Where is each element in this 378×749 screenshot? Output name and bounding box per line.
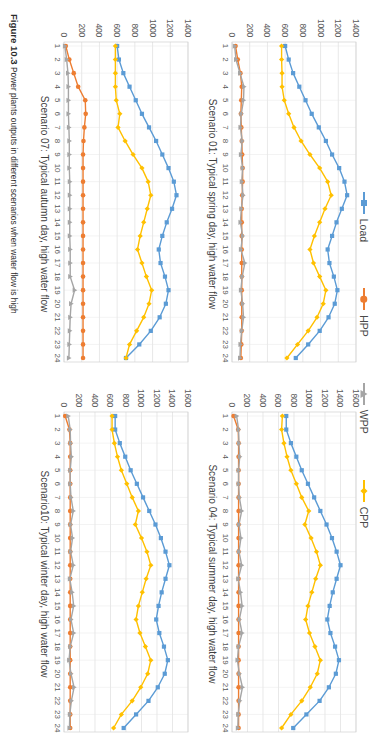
y-axis-tick-label: 0 xyxy=(227,32,237,37)
x-axis-tick-label: 2 xyxy=(53,427,62,431)
y-axis-tick-label: 1400 xyxy=(183,19,193,37)
chart-subtitle: Scenario 04: Typical summer day, high wa… xyxy=(207,412,218,736)
x-axis-labels: 123456789101112131415161718192021222324 xyxy=(51,412,62,732)
chart-panel-scenario-07: 0200400600800100012001400 12345678910111… xyxy=(30,8,190,366)
legend-label-wpp: WPP xyxy=(358,410,370,434)
x-axis-tick-label: 24 xyxy=(53,354,62,363)
y-axis-tick-label: 400 xyxy=(262,23,272,37)
line-chart-svg xyxy=(64,42,188,362)
y-axis-tick-label: 400 xyxy=(90,393,100,407)
x-axis-tick-label: 10 xyxy=(221,164,230,173)
x-axis-tick-label: 23 xyxy=(53,340,62,349)
figure-page: Load HPP WPP xyxy=(0,0,378,749)
x-axis-tick-label: 20 xyxy=(221,299,230,308)
x-axis-tick-label: 16 xyxy=(53,245,62,254)
x-axis-labels: 123456789101112131415161718192021222324 xyxy=(219,412,230,732)
x-axis-tick-label: 21 xyxy=(221,683,230,692)
x-axis-tick-label: 19 xyxy=(53,656,62,665)
x-axis-tick-label: 16 xyxy=(221,245,230,254)
x-axis-tick-label: 9 xyxy=(53,152,62,156)
legend-item-hpp[interactable]: HPP xyxy=(358,288,370,337)
x-axis-tick-label: 4 xyxy=(53,454,62,458)
x-axis-tick-label: 6 xyxy=(221,112,230,116)
x-axis-tick-label: 20 xyxy=(53,299,62,308)
y-axis-tick-label: 200 xyxy=(77,23,87,37)
legend-label-cpp: CPP xyxy=(358,507,370,529)
x-axis-labels: 123456789101112131415161718192021222324 xyxy=(51,42,62,362)
x-axis-tick-label: 13 xyxy=(53,204,62,213)
x-axis-tick-label: 13 xyxy=(53,574,62,583)
y-axis-tick-label: 1400 xyxy=(168,389,178,407)
y-axis-tick-label: 600 xyxy=(112,23,122,37)
y-axis-labels: 02004006008001000120014001600 xyxy=(232,378,356,410)
x-axis-tick-label: 14 xyxy=(53,588,62,597)
x-axis-tick-label: 7 xyxy=(221,495,230,499)
y-axis-tick-label: 800 xyxy=(130,23,140,37)
legend-label-load: Load xyxy=(358,219,370,242)
chart-panel-scenario-10: 02004006008001000120014001600 1234567891… xyxy=(30,378,190,736)
chart-panel-scenario-04: 02004006008001000120014001600 1234567891… xyxy=(198,378,358,736)
legend-item-cpp[interactable]: CPP xyxy=(358,480,370,529)
chart-subtitle: Scenario10: Typical winter day, high wat… xyxy=(39,412,50,736)
x-axis-tick-label: 21 xyxy=(53,683,62,692)
x-axis-tick-label: 18 xyxy=(53,272,62,281)
x-axis-tick-label: 15 xyxy=(53,231,62,240)
y-axis-labels: 0200400600800100012001400 xyxy=(64,8,188,40)
x-axis-tick-label: 13 xyxy=(221,204,230,213)
y-axis-tick-label: 0 xyxy=(59,32,69,37)
x-axis-tick-label: 15 xyxy=(53,601,62,610)
x-axis-labels: 123456789101112131415161718192021222324 xyxy=(219,42,230,362)
y-axis-tick-label: 1400 xyxy=(351,19,361,37)
x-axis-tick-label: 7 xyxy=(53,125,62,129)
x-axis-tick-label: 18 xyxy=(221,272,230,281)
x-axis-tick-label: 8 xyxy=(221,139,230,143)
x-axis-tick-label: 15 xyxy=(221,231,230,240)
y-axis-tick-label: 1000 xyxy=(305,389,315,407)
y-axis-tick-label: 1000 xyxy=(148,19,158,37)
x-axis-tick-label: 2 xyxy=(53,57,62,61)
y-axis-labels: 0200400600800100012001400 xyxy=(232,8,356,40)
y-axis-tick-label: 600 xyxy=(274,393,284,407)
x-axis-tick-label: 12 xyxy=(53,561,62,570)
figure-page-rotated-frame: Load HPP WPP xyxy=(0,0,378,749)
y-axis-tick-label: 400 xyxy=(94,23,104,37)
plot-area xyxy=(64,42,188,362)
x-axis-tick-label: 4 xyxy=(221,84,230,88)
legend-label-hpp: HPP xyxy=(358,315,370,337)
x-axis-tick-label: 17 xyxy=(53,629,62,638)
square-marker-icon xyxy=(363,192,365,214)
plot-area xyxy=(232,412,356,732)
x-axis-tick-label: 18 xyxy=(221,642,230,651)
x-axis-tick-label: 15 xyxy=(221,601,230,610)
y-axis-labels: 02004006008001000120014001600 xyxy=(64,378,188,410)
x-axis-tick-label: 22 xyxy=(221,696,230,705)
x-axis-tick-label: 9 xyxy=(53,522,62,526)
y-axis-tick-label: 800 xyxy=(298,23,308,37)
y-axis-tick-label: 1400 xyxy=(336,389,346,407)
y-axis-tick-label: 200 xyxy=(243,393,253,407)
x-axis-tick-label: 10 xyxy=(53,164,62,173)
y-axis-tick-label: 0 xyxy=(59,402,69,407)
x-axis-tick-label: 8 xyxy=(53,509,62,513)
line-chart-svg xyxy=(64,412,188,732)
circle-marker-icon xyxy=(363,288,365,310)
y-axis-tick-label: 600 xyxy=(106,393,116,407)
line-chart-svg xyxy=(232,42,356,362)
x-axis-tick-label: 17 xyxy=(53,259,62,268)
x-axis-tick-label: 19 xyxy=(221,286,230,295)
x-axis-tick-label: 2 xyxy=(221,57,230,61)
x-axis-tick-label: 5 xyxy=(221,468,230,472)
y-axis-tick-label: 600 xyxy=(280,23,290,37)
x-axis-tick-label: 14 xyxy=(53,218,62,227)
legend-item-load[interactable]: Load xyxy=(358,192,370,242)
x-axis-tick-label: 14 xyxy=(221,588,230,597)
x-axis-tick-label: 3 xyxy=(53,441,62,445)
y-axis-tick-label: 1600 xyxy=(351,389,361,407)
x-axis-tick-label: 16 xyxy=(221,615,230,624)
y-axis-tick-label: 1600 xyxy=(183,389,193,407)
chart-subtitle: Scenario 01: Typical spring day, high wa… xyxy=(207,42,218,366)
x-axis-tick-label: 19 xyxy=(53,286,62,295)
y-axis-tick-label: 1000 xyxy=(137,389,147,407)
figure-container: Load HPP WPP xyxy=(0,0,378,749)
y-axis-tick-label: 0 xyxy=(227,402,237,407)
